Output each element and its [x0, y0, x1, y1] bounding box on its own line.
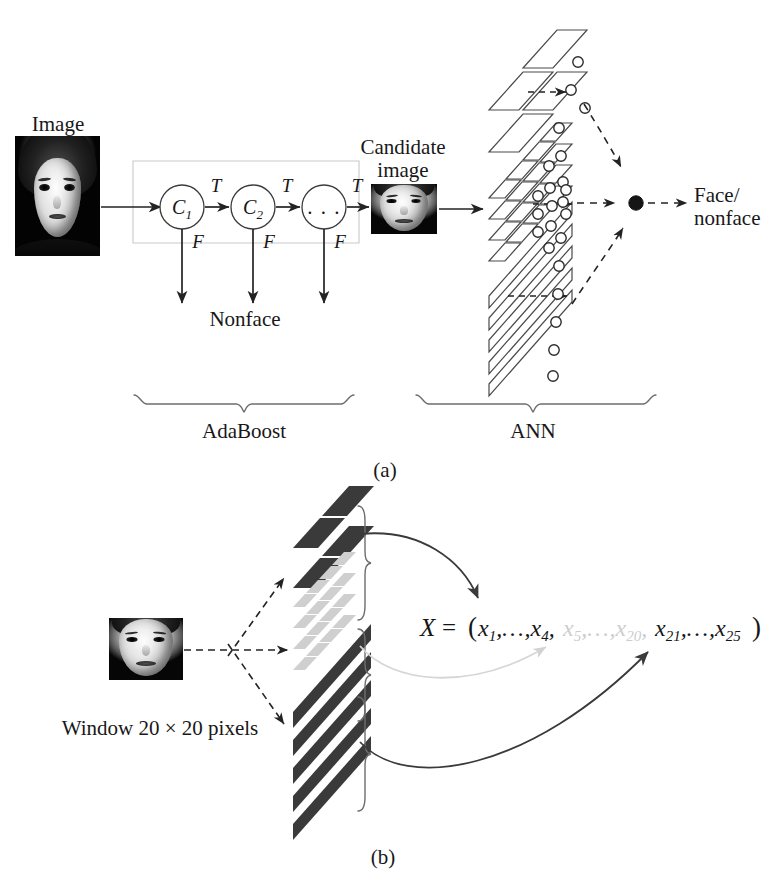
panelb-formula: X = ( x1,…,x4, x5,…,x20, x21,…,x25 ): [419, 612, 761, 644]
neuron: [561, 209, 571, 219]
cascade-false-label-3: F: [333, 231, 346, 252]
output-label-line1: Face/: [694, 184, 739, 207]
adaboost-brace: [134, 395, 354, 412]
output-label-line2: nonface: [694, 207, 760, 230]
panel-b-caption: (b): [371, 846, 396, 869]
cascade-false-label-2: F: [262, 231, 275, 252]
formula-close-paren: ): [752, 612, 761, 642]
neuron: [558, 197, 568, 207]
formula-segment-1: x1,…,x4,: [477, 615, 555, 644]
adaboost-label: AdaBoost: [202, 420, 286, 443]
panelb-arrow-middle-group: [360, 646, 546, 678]
neuron: [566, 85, 576, 95]
neuron: [573, 57, 583, 67]
panelb-brace-middle: [358, 629, 371, 721]
neuron: [544, 243, 554, 253]
panel-a-caption: (a): [373, 459, 396, 482]
formula-X: X: [419, 614, 437, 641]
cascade-true-label-3: T: [352, 175, 364, 196]
ann-feature-group-medium: [489, 123, 572, 261]
cascade-stage-c2-label: C2: [243, 196, 263, 222]
window-feed-arrow-up: [228, 578, 284, 656]
candidate-image-label-line1: Candidate: [360, 136, 445, 159]
neuron: [547, 201, 557, 211]
cascade-stage-c1-label: C1: [172, 196, 192, 222]
candidate-image-label-line2: image: [377, 159, 428, 182]
panelb-brace-top: [358, 506, 371, 620]
panelb-arrow-top-group: [360, 533, 478, 598]
ann-output-link-bottom: [572, 228, 623, 304]
neuron: [561, 185, 571, 195]
neuron: [548, 371, 558, 381]
cascade-false-label-1: F: [191, 231, 204, 252]
neuron: [558, 177, 568, 187]
neuron: [551, 317, 561, 327]
neuron: [549, 345, 559, 355]
neuron: [533, 191, 543, 201]
formula-open-paren: (: [468, 612, 477, 642]
cascade-true-label-2: T: [282, 175, 294, 196]
neuron: [556, 233, 566, 243]
formula-segment-2: x5,…,x20,: [562, 615, 647, 644]
cascade-stage-ellipsis-label: . . .: [307, 195, 341, 219]
cascade-stage-ellipsis: [302, 185, 346, 229]
neuron: [533, 227, 543, 237]
cascade-stage-c2: [231, 185, 275, 229]
window-size-label: Window 20 × 20 pixels: [62, 717, 259, 740]
ann-hidden-neurons: [533, 57, 590, 381]
formula-segment-3: x21,…,x25: [654, 615, 741, 644]
image-label: Image: [32, 113, 84, 136]
ann-label: ANN: [510, 420, 556, 443]
cascade-stage-c1: [160, 185, 204, 229]
panelb-feature-group-bottom: [293, 624, 371, 840]
window-feed-arrow-down: [228, 644, 284, 724]
ann-output-link-top: [584, 104, 621, 167]
candidate-face-photo: [371, 184, 437, 234]
neuron: [553, 289, 563, 299]
cascade-box: [133, 161, 359, 243]
ann-feature-stack: [489, 30, 587, 396]
neuron: [546, 221, 556, 231]
neuron: [554, 261, 564, 271]
ann-feature-group-stripes: [489, 202, 572, 396]
input-face-photo: [15, 136, 100, 256]
neuron: [544, 161, 554, 171]
neuron: [545, 183, 555, 193]
neuron: [556, 151, 566, 161]
neuron: [554, 123, 564, 133]
neuron: [580, 103, 590, 113]
cascade-true-label-1: T: [211, 175, 223, 196]
diagram-vector-layer: C1 C2 . . . T T T F F F: [0, 0, 771, 893]
nonface-label: Nonface: [209, 308, 280, 331]
panelb-arrow-bottom-group: [360, 652, 648, 768]
panelb-feature-group-middle: [293, 552, 356, 670]
panelb-feature-group-top: [293, 486, 374, 588]
ann-output-neuron: [629, 196, 643, 210]
ann-brace: [416, 395, 656, 412]
panelb-brace-bottom: [358, 697, 371, 811]
ann-feature-group-coarse: [489, 30, 587, 152]
window-face-photo: [109, 618, 183, 680]
formula-equals: =: [442, 614, 456, 641]
neuron: [533, 209, 543, 219]
figure-root: Image Candidate image Face/ nonface Nonf…: [0, 0, 771, 893]
